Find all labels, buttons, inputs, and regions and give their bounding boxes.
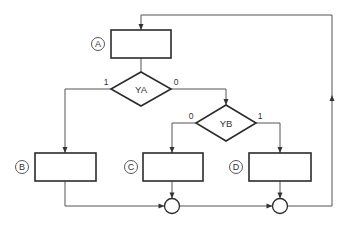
decision-yb-label: YB bbox=[220, 118, 233, 129]
badge-d-label: D bbox=[233, 162, 240, 172]
line-yb-to-d bbox=[256, 123, 280, 153]
line-yb-to-c bbox=[172, 123, 196, 153]
process-block-d: D bbox=[230, 153, 312, 181]
flowchart-svg: A B C D YA 1 0 YB 0 1 bbox=[0, 0, 347, 226]
process-block-a: A bbox=[92, 30, 172, 58]
decision-ya-branch-1-label: 1 bbox=[104, 77, 109, 87]
process-block-c: C bbox=[125, 153, 204, 181]
arrow-into-b-icon bbox=[63, 147, 68, 153]
arrow-into-j1-left-icon bbox=[159, 204, 165, 209]
decision-ya-label: YA bbox=[135, 84, 148, 95]
arrow-into-d-icon bbox=[278, 147, 283, 153]
line-ya-to-b bbox=[65, 89, 111, 153]
decision-yb-branch-0-label: 0 bbox=[189, 111, 194, 121]
process-block-b: B bbox=[16, 153, 97, 181]
arrow-into-a-icon bbox=[139, 24, 144, 30]
arrow-into-j1-top-icon bbox=[170, 193, 175, 199]
arrow-into-c-icon bbox=[170, 147, 175, 153]
decision-yb: YB 0 1 bbox=[189, 105, 263, 141]
arrow-into-j2-top-icon bbox=[278, 193, 283, 199]
line-ya-to-yb bbox=[171, 89, 226, 105]
badge-c-label: C bbox=[128, 162, 135, 172]
decision-yb-branch-1-label: 1 bbox=[258, 111, 263, 121]
flowchart-canvas: A B C D YA 1 0 YB 0 1 bbox=[0, 0, 347, 226]
junction-1 bbox=[165, 199, 180, 214]
decision-ya: YA 1 0 bbox=[104, 72, 179, 106]
arrow-into-j2-left-icon bbox=[267, 204, 273, 209]
junction-2 bbox=[273, 199, 288, 214]
feedback-arrow-up-icon bbox=[330, 95, 335, 101]
line-b-to-j1 bbox=[65, 181, 165, 206]
decision-ya-branch-0-label: 0 bbox=[174, 77, 179, 87]
badge-a-label: A bbox=[95, 39, 101, 49]
badge-b-label: B bbox=[19, 162, 25, 172]
